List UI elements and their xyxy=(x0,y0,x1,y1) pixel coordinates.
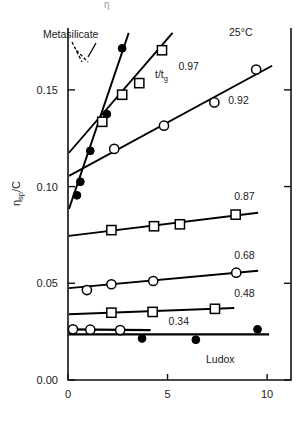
marker-0.87-0 xyxy=(107,226,116,235)
fit-line-0.68 xyxy=(69,271,258,288)
marker-Metasilicate-0 xyxy=(73,191,81,199)
metasilicate-solid-leader xyxy=(88,43,96,57)
figure-root: η ηsp/C 0.000.050.100.150510 0.970.920.8… xyxy=(0,0,306,424)
marker-0.97-2 xyxy=(135,79,144,88)
x-tick-label-1: 5 xyxy=(164,388,170,400)
marker-Ludox-1 xyxy=(192,336,200,344)
y-axis-label-sub: sp xyxy=(16,192,25,200)
y-tick-label-3: 0.15 xyxy=(37,84,58,96)
marker-0.97-3 xyxy=(157,46,166,55)
cropped-top-glyph: η xyxy=(104,0,110,10)
marker-Ludox-2 xyxy=(254,325,262,333)
ludox-label: Ludox xyxy=(206,353,235,365)
series-label-0.68: 0.68 xyxy=(234,249,255,261)
marker-0.48-1 xyxy=(148,307,157,316)
y-tick-label-1: 0.05 xyxy=(37,277,58,289)
marker-0.92-2 xyxy=(210,98,219,107)
y-tick-label-0: 0.00 xyxy=(37,374,58,386)
marker-0.97-0 xyxy=(98,117,107,126)
marker-Metasilicate-4 xyxy=(118,44,126,52)
marker-0.34-2 xyxy=(116,326,125,335)
fit-line-0.34 xyxy=(68,329,150,330)
viscosity-chart: η ηsp/C 0.000.050.100.150510 0.970.920.8… xyxy=(0,0,306,424)
data-markers xyxy=(68,44,261,343)
marker-0.92-0 xyxy=(110,144,119,153)
axis-ticks xyxy=(68,90,291,380)
svg-text:ηsp/C: ηsp/C xyxy=(10,181,25,206)
marker-0.68-0 xyxy=(82,285,91,294)
marker-0.48-0 xyxy=(107,308,116,317)
marker-0.48-2 xyxy=(210,304,219,313)
series-label-0.48: 0.48 xyxy=(234,287,255,299)
marker-0.34-1 xyxy=(86,325,95,334)
temperature-note: 25°C xyxy=(229,26,253,38)
marker-Ludox-0 xyxy=(138,335,146,343)
series-label-0.97: 0.97 xyxy=(179,60,200,72)
x-tick-label-0: 0 xyxy=(65,388,71,400)
fit-line-0.87 xyxy=(69,213,258,236)
marker-0.68-3 xyxy=(232,268,241,277)
axis-tick-labels: 0.000.050.100.150510 xyxy=(37,84,274,400)
ratio-symbol-main: t/t xyxy=(155,68,164,80)
y-tick-label-2: 0.10 xyxy=(37,181,58,193)
metasilicate-label: Metasilicate xyxy=(43,28,99,40)
marker-0.92-3 xyxy=(252,65,261,74)
ratio-symbol: t/tg xyxy=(155,68,168,83)
marker-0.92-1 xyxy=(159,121,168,130)
marker-Metasilicate-2 xyxy=(86,147,94,155)
marker-0.87-1 xyxy=(149,222,158,231)
marker-0.68-2 xyxy=(149,276,158,285)
metasilicate-annotation: Metasilicate xyxy=(43,28,99,62)
metasilicate-dashed-leader xyxy=(72,42,88,62)
y-axis-label-tail: /C xyxy=(10,181,22,192)
marker-0.87-2 xyxy=(175,220,184,229)
marker-0.97-1 xyxy=(118,90,127,99)
marker-0.68-1 xyxy=(107,280,116,289)
marker-Metasilicate-1 xyxy=(76,178,84,186)
series-label-0.92: 0.92 xyxy=(228,94,249,106)
marker-0.34-0 xyxy=(68,325,77,334)
y-axis-label: ηsp/C xyxy=(10,181,25,206)
series-label-0.87: 0.87 xyxy=(234,190,255,202)
marker-0.87-3 xyxy=(231,210,240,219)
series-label-0.34: 0.34 xyxy=(169,315,190,327)
ratio-symbol-sub: g xyxy=(164,74,168,83)
x-tick-label-2: 10 xyxy=(261,388,273,400)
